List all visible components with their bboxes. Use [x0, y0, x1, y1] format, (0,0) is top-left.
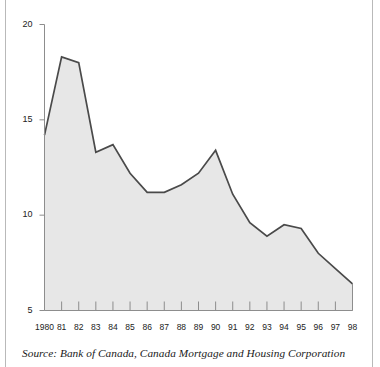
x-tick-label: 89	[194, 322, 203, 332]
x-tick-label: 84	[108, 322, 117, 332]
x-tick-label: 85	[125, 322, 134, 332]
x-tick-label: 96	[314, 322, 323, 332]
source-note: Source: Bank of Canada, Canada Mortgage …	[22, 347, 367, 359]
series-area-fill	[45, 57, 353, 311]
x-tick-label: 94	[279, 322, 288, 332]
x-tick-label: 82	[74, 322, 83, 332]
chart-fill-group	[45, 57, 353, 311]
x-tick-label: 91	[228, 322, 237, 332]
x-tick-label: 1980	[35, 322, 54, 332]
x-tick-label: 86	[142, 322, 151, 332]
x-tick-label: 92	[245, 322, 254, 332]
x-tick-label: 90	[211, 322, 220, 332]
y-tick-label: 10	[11, 209, 33, 219]
area-chart	[0, 0, 380, 340]
x-tick-label: 93	[262, 322, 271, 332]
x-tick-label: 97	[331, 322, 340, 332]
x-tick-label: 81	[57, 322, 66, 332]
figure-container: 5101520 19808182838485868788899091929394…	[0, 0, 380, 367]
x-tick-label: 87	[160, 322, 169, 332]
y-tick-label: 15	[11, 114, 33, 124]
y-tick-label: 20	[11, 19, 33, 29]
x-tick-label: 83	[91, 322, 100, 332]
x-tick-label: 98	[348, 322, 357, 332]
y-tick-label: 5	[11, 305, 33, 315]
plot-area: 5101520 19808182838485868788899091929394…	[0, 0, 380, 340]
x-tick-label: 95	[296, 322, 305, 332]
x-tick-label: 88	[177, 322, 186, 332]
